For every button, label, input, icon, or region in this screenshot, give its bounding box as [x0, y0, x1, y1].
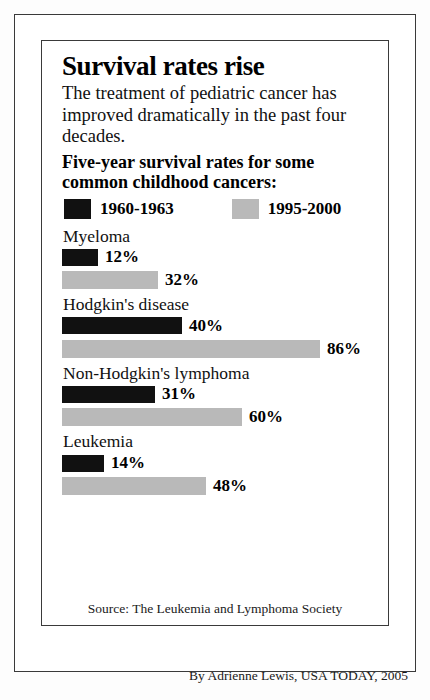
bar-value-new: 32%: [165, 270, 199, 290]
infographic-root: Survival rates rise The treatment of ped…: [0, 0, 430, 700]
bar-value-old: 31%: [162, 384, 196, 404]
legend-label-new: 1995-2000: [268, 199, 342, 219]
bar-new: [62, 477, 206, 495]
bar-row-old: 40%: [62, 316, 374, 336]
legend-swatch-gray-icon: [232, 199, 259, 219]
bar-group-hodgkins-disease: Hodgkin's disease 40% 86%: [62, 295, 374, 359]
bar-group-label: Myeloma: [63, 227, 374, 247]
inner-border-frame: Survival rates rise The treatment of ped…: [41, 40, 389, 626]
bar-value-old: 12%: [105, 247, 139, 267]
bar-value-new: 86%: [327, 339, 361, 359]
bar-row-new: 32%: [62, 270, 374, 290]
legend-item-new: 1995-2000: [232, 199, 342, 219]
byline-credit: By Adrienne Lewis, USA TODAY, 2005: [189, 668, 408, 684]
bar-group-leukemia: Leukemia 14% 48%: [62, 432, 374, 496]
legend-item-old: 1960-1963: [64, 199, 174, 219]
deck-text: The treatment of pediatric cancer has im…: [62, 83, 374, 147]
legend-label-old: 1960-1963: [100, 199, 174, 219]
bar-new: [62, 340, 320, 358]
bar-group-label: Non-Hodgkin's lymphoma: [63, 364, 374, 384]
bar-group-non-hodgkins-lymphoma: Non-Hodgkin's lymphoma 31% 60%: [62, 364, 374, 428]
chart-legend: 1960-1963 1995-2000: [64, 199, 374, 219]
bar-value-new: 48%: [213, 476, 247, 496]
legend-swatch-black-icon: [64, 199, 91, 219]
bar-group-myeloma: Myeloma 12% 32%: [62, 227, 374, 291]
bar-value-new: 60%: [249, 407, 283, 427]
bar-row-new: 48%: [62, 476, 374, 496]
bar-new: [62, 408, 242, 426]
bar-old: [62, 386, 155, 403]
source-note: Source: The Leukemia and Lymphoma Societ…: [42, 601, 388, 617]
bar-row-new: 86%: [62, 339, 374, 359]
bar-old: [62, 317, 182, 334]
bar-row-new: 60%: [62, 407, 374, 427]
bar-group-label: Leukemia: [63, 432, 374, 452]
page-title: Survival rates rise: [62, 51, 374, 81]
bar-row-old: 14%: [62, 453, 374, 473]
bar-group-label: Hodgkin's disease: [63, 295, 374, 315]
bar-row-old: 31%: [62, 384, 374, 404]
infographic-content: Survival rates rise The treatment of ped…: [62, 51, 374, 501]
bar-new: [62, 271, 158, 289]
bar-row-old: 12%: [62, 247, 374, 267]
bar-value-old: 40%: [189, 316, 223, 336]
bar-value-old: 14%: [111, 453, 145, 473]
bar-old: [62, 249, 98, 266]
bar-old: [62, 455, 104, 472]
chart-subtitle: Five-year survival rates for some common…: [62, 152, 374, 193]
